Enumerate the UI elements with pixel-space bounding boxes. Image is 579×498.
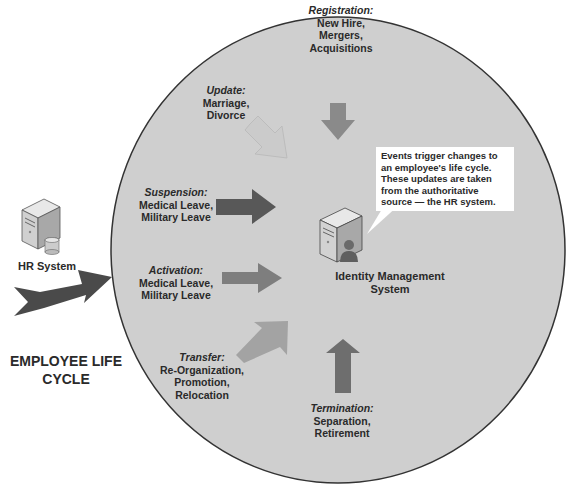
event-title: Suspension:	[136, 186, 216, 199]
callout-note: Events trigger changes to an employee's …	[376, 147, 514, 211]
event-detail: Medical Leave,	[136, 277, 216, 290]
event-termination: Termination: Separation, Retirement	[300, 402, 384, 440]
employee-lifecycle-title: EMPLOYEE LIFE CYCLE	[6, 352, 126, 388]
event-detail: New Hire,	[296, 17, 386, 30]
event-activation: Activation: Medical Leave, Military Leav…	[136, 264, 216, 302]
event-registration: Registration: New Hire, Mergers, Acquisi…	[296, 4, 386, 54]
event-suspension: Suspension: Medical Leave, Military Leav…	[136, 186, 216, 224]
identity-management-label: Identity Management System	[320, 270, 460, 296]
hr-system-label: HR System	[18, 260, 76, 272]
event-title: Registration:	[296, 4, 386, 17]
event-transfer: Transfer: Re-Organization, Promotion, Re…	[160, 351, 244, 401]
event-detail: Medical Leave,	[136, 199, 216, 212]
event-detail: Relocation	[160, 389, 244, 402]
event-detail: Military Leave	[136, 211, 216, 224]
event-title: Termination:	[300, 402, 384, 415]
event-detail: Divorce	[196, 109, 256, 122]
server-database-icon	[22, 199, 60, 255]
event-detail: Acquisitions	[296, 42, 386, 55]
event-detail: Separation,	[300, 415, 384, 428]
event-detail: Mergers,	[296, 29, 386, 42]
event-detail: Marriage,	[196, 97, 256, 110]
event-update: Update: Marriage, Divorce	[196, 84, 256, 122]
diagram-canvas	[0, 0, 579, 498]
event-detail: Re-Organization,	[160, 364, 244, 377]
event-title: Transfer:	[160, 351, 244, 364]
event-detail: Promotion,	[160, 376, 244, 389]
employee-lifecycle-arrow	[14, 270, 112, 316]
event-title: Activation:	[136, 264, 216, 277]
event-detail: Military Leave	[136, 289, 216, 302]
event-detail: Retirement	[300, 427, 384, 440]
event-title: Update:	[196, 84, 256, 97]
